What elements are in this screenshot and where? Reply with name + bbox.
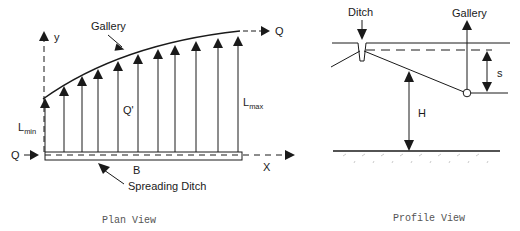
h-label: H [418, 107, 426, 119]
gallery-pointer [108, 35, 122, 47]
plan-view: y Q Gallery Lmin Q' Lmax [11, 20, 295, 226]
gallery-curve [43, 31, 240, 99]
spreading-ditch [45, 152, 242, 160]
s-arrow-down-icon [482, 82, 492, 92]
gallery-arrowhead-icon [462, 20, 472, 30]
mound-left-slope [331, 51, 360, 67]
ditch-arrowhead-icon [357, 29, 367, 40]
b-label: B [133, 164, 140, 176]
spreading-ditch-label: Spreading Ditch [128, 180, 206, 192]
x-axis-arrowhead-icon [285, 150, 295, 160]
q-out-label: Q [275, 25, 284, 37]
l-max-label: Lmax [243, 96, 264, 111]
plan-view-caption: Plan View [102, 215, 156, 226]
q-in-arrowhead-icon [30, 150, 39, 160]
profile-gallery-label: Gallery [452, 7, 487, 19]
profile-view: Gallery Ditch s H [331, 6, 510, 224]
ditch-label: Ditch [348, 6, 373, 18]
s-arrow-up-icon [482, 51, 492, 61]
s-label: s [497, 67, 503, 79]
diagram-canvas: y Q Gallery Lmin Q' Lmax [0, 0, 520, 231]
q-out-arrowhead-icon [261, 26, 270, 36]
gallery-pipe-icon [463, 89, 471, 97]
x-axis-label: X [263, 161, 271, 173]
drawdown-line [364, 51, 464, 92]
spreading-ditch-pointer [104, 170, 124, 184]
h-arrow-down-icon [404, 140, 414, 151]
flow-arrows [40, 36, 243, 152]
q-in-label: Q [11, 149, 20, 161]
h-arrow-up-icon [404, 71, 414, 82]
profile-view-caption: Profile View [393, 213, 465, 224]
y-axis-arrow-icon [39, 31, 49, 41]
y-axis-label: y [54, 31, 60, 43]
gallery-label: Gallery [91, 20, 126, 32]
q-prime-label: Q' [123, 104, 134, 116]
l-min-label: Lmin [18, 121, 36, 136]
base-hatching [343, 154, 488, 163]
